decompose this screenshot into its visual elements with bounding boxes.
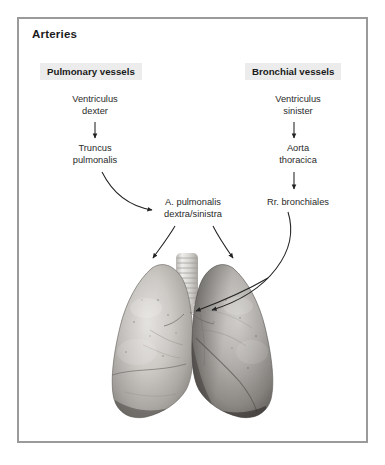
node-truncus-pulmonalis: Truncus pulmonalis xyxy=(45,142,145,167)
column-header-bronchial: Bronchial vessels xyxy=(245,63,341,80)
column-header-pulmonary: Pulmonary vessels xyxy=(40,63,142,80)
node-ventriculus-dexter: Ventriculus dexter xyxy=(45,93,145,118)
diagram-page: Arteries Pulmonary vessels Bronchial ves… xyxy=(0,0,385,465)
page-title: Arteries xyxy=(32,28,77,40)
node-a-pulmonalis: A. pulmonalis dextra/sinistra xyxy=(143,196,243,221)
node-ventriculus-sinister: Ventriculus sinister xyxy=(248,93,348,118)
node-aorta-thoracica: Aorta thoracica xyxy=(248,142,348,167)
panel-frame xyxy=(17,17,368,443)
node-rr-bronchiales: Rr. bronchiales xyxy=(248,196,348,208)
